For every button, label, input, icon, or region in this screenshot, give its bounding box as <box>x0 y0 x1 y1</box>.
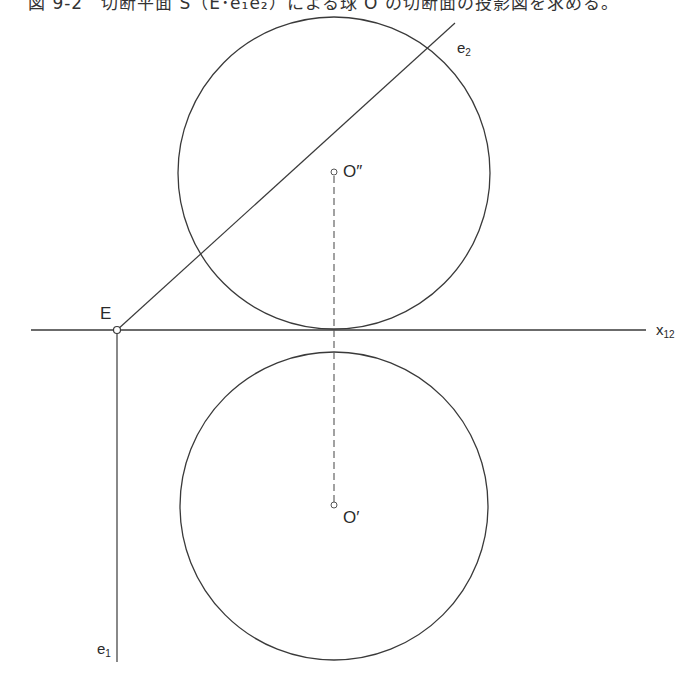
center-point-o-prime <box>331 502 337 508</box>
trace-line-e2 <box>117 23 455 330</box>
label-e1: e1 <box>97 641 111 659</box>
label-o-double-prime: O″ <box>343 163 362 180</box>
point-e-marker <box>114 327 121 334</box>
label-o-prime: O′ <box>343 509 359 526</box>
label-x12: x12 <box>656 322 675 340</box>
descriptive-geometry-figure <box>0 0 700 673</box>
label-e2: e2 <box>457 40 471 58</box>
center-point-o-double-prime <box>331 169 337 175</box>
label-e-point: E <box>100 305 111 322</box>
